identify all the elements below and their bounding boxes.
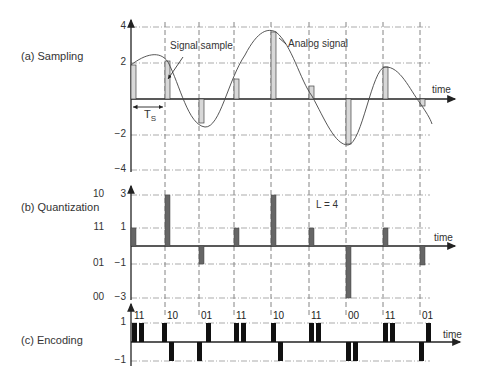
y-tick-2: 2 bbox=[102, 56, 126, 67]
q-code-01: 01 bbox=[80, 257, 104, 268]
code-label: 11 bbox=[134, 310, 144, 321]
analog-signal-annotation: Analog signal bbox=[288, 38, 348, 49]
signal-sample-annotation: Signal sample bbox=[170, 40, 233, 51]
encoding-panel bbox=[131, 304, 460, 366]
code-label: 01 bbox=[422, 310, 433, 321]
levels-note: L = 4 bbox=[316, 199, 338, 210]
time-axis-label-a: time bbox=[432, 84, 451, 95]
y-tick-neg2: −2 bbox=[102, 128, 126, 139]
time-axis-label-b: time bbox=[434, 232, 453, 243]
ts-label-sub: S bbox=[151, 114, 156, 123]
quantization-panel-label: (b) Quantization bbox=[21, 201, 99, 213]
code-label: 10 bbox=[167, 310, 178, 321]
time-axis-label-c: time bbox=[443, 329, 462, 340]
code-label: 11 bbox=[385, 310, 395, 321]
code-label: 01 bbox=[201, 310, 212, 321]
y-tick-neg4: −4 bbox=[102, 163, 126, 174]
ts-label-main: T bbox=[144, 108, 151, 120]
q-code-00: 00 bbox=[80, 291, 104, 302]
q-tick-3: 3 bbox=[102, 188, 126, 199]
y-tick-4: 4 bbox=[102, 20, 126, 31]
encoding-panel-label: (c) Encoding bbox=[21, 334, 83, 346]
quantization-panel bbox=[131, 186, 455, 300]
e-tick-1: 1 bbox=[102, 316, 126, 327]
q-code-11: 11 bbox=[80, 221, 104, 232]
q-tick-neg3: −3 bbox=[102, 291, 126, 302]
q-tick-neg1: −1 bbox=[102, 257, 126, 268]
code-label: 00 bbox=[348, 310, 359, 321]
e-tick-neg1: −1 bbox=[102, 354, 126, 365]
code-label: 10 bbox=[273, 310, 284, 321]
ts-label: TS bbox=[144, 108, 156, 123]
q-tick-1: 1 bbox=[102, 221, 126, 232]
code-label: 11 bbox=[236, 310, 246, 321]
q-code-10: 10 bbox=[80, 188, 104, 199]
sampling-panel-label: (a) Sampling bbox=[21, 50, 83, 62]
code-label: 11 bbox=[311, 310, 321, 321]
